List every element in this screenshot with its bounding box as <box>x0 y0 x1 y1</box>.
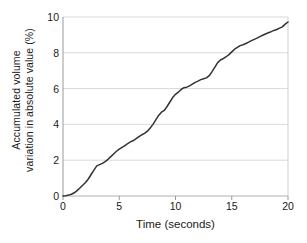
x-tick-label: 5 <box>116 201 122 212</box>
x-axis-tick-labels: 05101520 <box>0 201 307 215</box>
chart-figure: Accumulated volume variation in absolute… <box>0 0 307 243</box>
x-tick-label: 0 <box>60 201 66 212</box>
x-tick-label: 15 <box>226 201 238 212</box>
gridlines <box>63 17 288 196</box>
x-tick-label: 20 <box>282 201 294 212</box>
data-series-line <box>63 22 288 196</box>
x-tick-label: 10 <box>170 201 182 212</box>
x-axis-label: Time (seconds) <box>63 218 288 231</box>
